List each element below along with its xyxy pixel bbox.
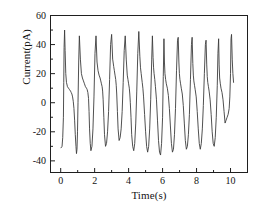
plot-canvas	[0, 0, 269, 209]
plot-border	[51, 16, 248, 173]
chart-figure: Current(pA) Time(s) -40-200204060 024681…	[0, 0, 269, 209]
data-trace	[61, 30, 234, 155]
axes-frame	[51, 16, 248, 173]
data-trace-group	[61, 30, 234, 155]
